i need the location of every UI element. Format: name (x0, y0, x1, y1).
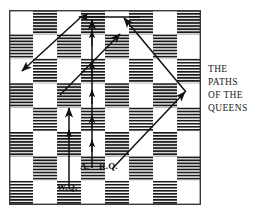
figure-the-paths-of-the-queens: A. R.Q. W.Q. THE PATHS OF THE QUEENS (0, 0, 256, 217)
label-red-queen: R.Q. (99, 161, 118, 171)
caption-line-3: OF THE (208, 89, 256, 102)
caption-line-1: THE (208, 63, 256, 76)
caption-line-4: QUEENS (208, 102, 256, 115)
label-alice: A. (80, 161, 89, 171)
chessboard-svg (9, 10, 201, 205)
caption-line-2: PATHS (208, 76, 256, 89)
label-white-queen: W.Q. (57, 182, 77, 192)
chessboard (9, 10, 201, 205)
figure-caption: THE PATHS OF THE QUEENS (208, 63, 256, 115)
